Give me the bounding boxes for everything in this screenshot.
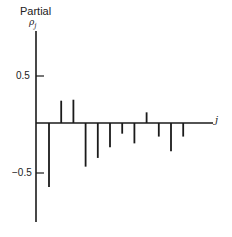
chart-title: Partial	[20, 5, 51, 17]
y-axis-label: ρj	[29, 17, 36, 30]
y-tick-label-neg: −0.5	[12, 167, 32, 178]
pacf-stems	[49, 100, 183, 187]
y-axis-label-subscript: j	[34, 22, 36, 30]
pacf-plot	[0, 0, 232, 237]
x-axis-label: j	[215, 114, 218, 125]
y-tick-label-pos: 0.5	[16, 70, 30, 81]
